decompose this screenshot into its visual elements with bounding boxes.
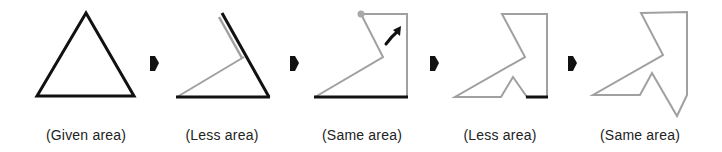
step-label-same-1: (Same area) [322,127,402,143]
shape-notched [455,14,548,97]
right-arrow-icon [290,56,299,71]
shape-cut-triangle [176,13,270,97]
right-arrow-icon [150,56,159,71]
shape-given-triangle [37,13,134,96]
curved-arrow-icon [386,26,401,44]
shape-rotated-flap [314,11,408,98]
step-label-less-2: (Less area) [463,127,536,143]
shape-final-polygon [593,12,687,116]
step-label-same-2: (Same area) [600,127,680,143]
step-label-given: (Given area) [46,127,126,143]
pivot-dot-icon [358,11,365,18]
step-label-less-1: (Less area) [185,127,258,143]
right-arrow-icon [430,56,439,71]
right-arrow-icon [568,56,577,71]
